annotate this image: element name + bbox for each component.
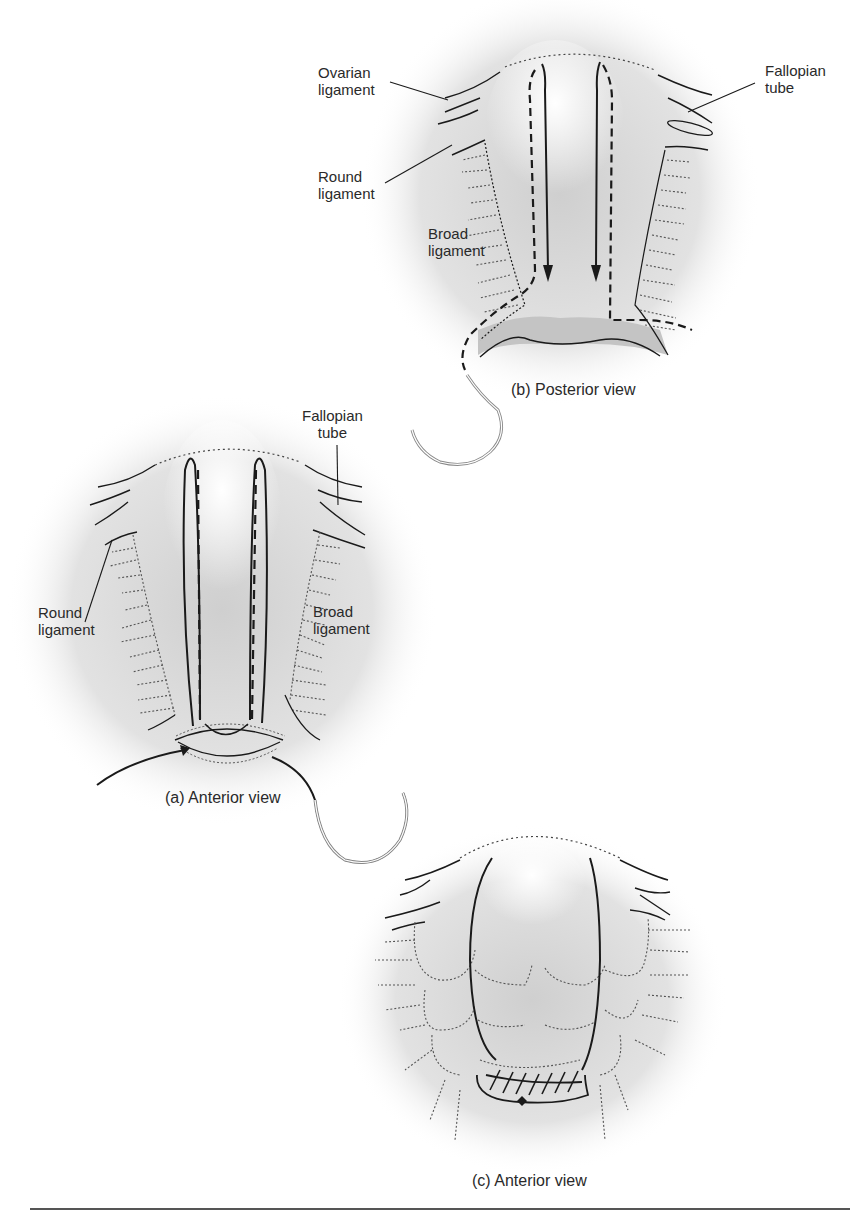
caption-anterior-view-c: (c) Anterior view (472, 1172, 587, 1190)
label-round-ligament-b: Round ligament (318, 168, 375, 202)
caption-posterior-view-b: (b) Posterior view (511, 381, 635, 399)
label-broad-ligament-a: Broad ligament (313, 603, 370, 637)
label-round-ligament-a: Round ligament (38, 604, 95, 638)
figure-bottom-rule (30, 1208, 850, 1210)
label-fallopian-tube-b: Fallopian tube (765, 62, 826, 96)
label-fallopian-tube-a: Fallopian tube (302, 407, 363, 441)
figure-canvas (0, 0, 868, 1225)
panel-c-anterior-view (337, 825, 727, 1175)
label-broad-ligament-b: Broad ligament (428, 225, 485, 259)
label-ovarian-ligament-b: Ovarian ligament (318, 64, 375, 98)
caption-anterior-view-a: (a) Anterior view (165, 789, 281, 807)
